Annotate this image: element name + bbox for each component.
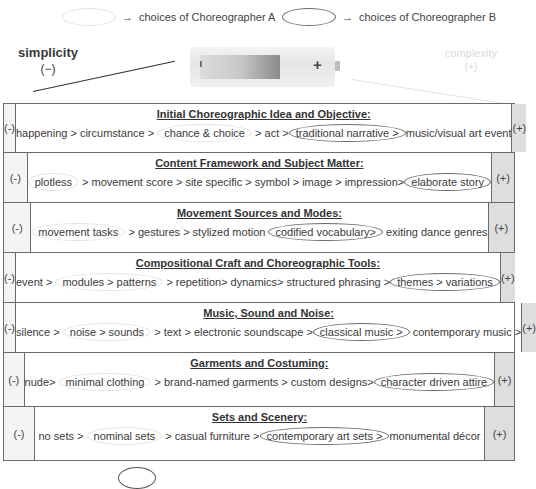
arrow-right-icon: → (342, 11, 353, 23)
minus-cell: (-) (4, 303, 16, 352)
minus-cell: (-) (4, 407, 35, 460)
scale-text: silence > (16, 326, 63, 338)
category-title: Compositional Craft and Choreographic To… (136, 257, 380, 269)
plus-cell: (+) (491, 153, 514, 202)
plus-cell: (+) (494, 353, 514, 406)
scale-text: > repetition> dynamics> structured phras… (163, 276, 390, 288)
category-cell: Content Framework and Subject Matter:plo… (28, 153, 491, 202)
category-title: Garments and Costuming: (190, 357, 328, 369)
choice-choreographer-a: noise > sounds (63, 323, 151, 341)
choice-choreographer-b: codified vocabulary> (268, 223, 383, 241)
scale-text: > gestures > stylized motion (125, 226, 268, 238)
plus-cell: (+) (521, 303, 536, 352)
scale-text: > movement score > site specific > symbo… (79, 176, 404, 188)
simplicity-text: simplicity (18, 45, 78, 60)
battery-charge-band (200, 55, 280, 79)
battery-minus-mark (200, 61, 202, 67)
scale-text: monumental décor (389, 430, 480, 442)
choice-choreographer-a: minimal clothing (59, 373, 152, 391)
scale-line-right (352, 79, 500, 103)
legend-choreographer-b: → choices of Choreographer B (282, 8, 496, 26)
minus-cell: (-) (4, 153, 28, 202)
complexity-sign: (+) (445, 61, 497, 72)
legend: → choices of Choreographer A → choices o… (0, 8, 520, 32)
category-cell: Initial Choreographic Idea and Objective… (16, 104, 511, 152)
choice-scale: event > modules > patterns > repetition>… (16, 276, 500, 288)
table-row: (-)Compositional Craft and Choreographic… (4, 253, 514, 303)
category-cell: Garments and Costuming:nude> minimal clo… (25, 353, 494, 406)
choice-choreographer-b: elaborate story (404, 173, 491, 191)
choice-choreographer-b: classical music > (313, 323, 410, 341)
category-title: Sets and Scenery: (212, 411, 307, 423)
choice-scale: silence > noise > sounds > text > electr… (16, 326, 521, 338)
choice-scale: no sets > nominal sets > casual furnitur… (39, 430, 481, 442)
choreography-table: (-)Initial Choreographic Idea and Object… (3, 103, 515, 461)
scale-text: contemporary music > (410, 326, 522, 338)
dark-oval-icon (282, 8, 336, 26)
scale-text: no sets > (39, 430, 87, 442)
dark-oval-icon (118, 467, 156, 489)
plus-cell: (+) (488, 203, 514, 252)
complexity-label: complexity (+) (445, 47, 497, 72)
choice-choreographer-b: contemporary art sets > (260, 427, 390, 445)
plus-cell: (+) (500, 253, 515, 302)
arrow-right-icon: → (122, 11, 133, 23)
choice-choreographer-b: character driven attire (374, 373, 494, 391)
scale-text: nude> (25, 376, 59, 388)
light-oval-icon (62, 8, 116, 26)
legend-label-a: choices of Choreographer A (139, 11, 275, 23)
choice-choreographer-a: plotless (28, 173, 79, 191)
choice-scale: nude> minimal clothing > brand-named gar… (25, 376, 494, 388)
scale-text: event > (16, 276, 55, 288)
category-cell: Compositional Craft and Choreographic To… (16, 253, 500, 302)
minus-cell: (-) (4, 203, 31, 252)
scale-text: > brand-named garments > custom designs> (151, 376, 373, 388)
battery-plus-mark: + (313, 56, 322, 73)
table-row: (-)Initial Choreographic Idea and Object… (4, 104, 514, 153)
table-row: (-)Content Framework and Subject Matter:… (4, 153, 514, 203)
scale-text: happening > circumstance > (16, 127, 157, 139)
choice-scale: plotless > movement score > site specifi… (28, 176, 491, 188)
battery-terminal (335, 61, 340, 71)
complexity-text: complexity (445, 47, 497, 59)
scale-text: music/visual art event (406, 127, 512, 139)
scale-text: > text > electronic soundscape > (151, 326, 313, 338)
category-cell: Movement Sources and Modes:movement task… (31, 203, 487, 252)
minus-cell: (-) (4, 104, 16, 152)
plus-cell: (+) (511, 104, 526, 152)
category-title: Movement Sources and Modes: (177, 207, 342, 219)
choice-choreographer-a: movement tasks (31, 223, 125, 241)
scale-text: exiting dance genres (383, 226, 488, 238)
scale-text: > act > (252, 127, 289, 139)
choice-choreographer-a: chance & choice (157, 124, 252, 142)
battery-icon: + (190, 47, 335, 87)
choice-choreographer-a: modules > patterns (55, 273, 163, 291)
scale-text: > casual furniture > (162, 430, 259, 442)
category-title: Music, Sound and Noise: (203, 307, 334, 319)
minus-cell: (-) (4, 253, 16, 302)
category-title: Content Framework and Subject Matter: (155, 157, 363, 169)
simplicity-sign: (−) (18, 62, 78, 76)
choice-scale: happening > circumstance > chance & choi… (16, 127, 511, 139)
category-cell: Music, Sound and Noise:silence > noise >… (16, 303, 521, 352)
category-title: Initial Choreographic Idea and Objective… (157, 108, 371, 120)
choice-choreographer-b: themes > variations (390, 273, 500, 291)
choice-choreographer-b: traditional narrative > (289, 124, 406, 142)
simplicity-label: simplicity (−) (18, 45, 78, 76)
table-row: (-)Sets and Scenery:no sets > nominal se… (4, 407, 514, 460)
category-cell: Sets and Scenery:no sets > nominal sets … (35, 407, 484, 460)
plus-cell: (+) (484, 407, 514, 460)
table-row: (-)Garments and Costuming:nude> minimal … (4, 353, 514, 407)
legend-label-b: choices of Choreographer B (359, 11, 496, 23)
choice-choreographer-a: nominal sets (87, 427, 163, 445)
choice-scale: movement tasks > gestures > stylized mot… (31, 226, 487, 238)
legend-choreographer-a: → choices of Choreographer A (62, 8, 275, 26)
minus-cell: (-) (4, 353, 25, 406)
table-row: (-)Music, Sound and Noise:silence > nois… (4, 303, 514, 353)
table-row: (-)Movement Sources and Modes:movement t… (4, 203, 514, 253)
